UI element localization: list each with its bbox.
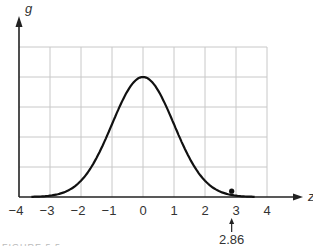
svg-text:3: 3 <box>232 203 239 218</box>
svg-text:−1: −1 <box>102 203 117 218</box>
normal-curve-chart: z g −4−3−2−101234 2.86 <box>0 0 313 247</box>
annotation-arrow: 2.86 <box>219 218 244 247</box>
figure-caption: FIGURE 5.5 <box>2 240 61 246</box>
y-axis-label: g <box>25 1 33 16</box>
x-axis-arrow-icon <box>293 194 303 201</box>
svg-text:−3: −3 <box>40 203 55 218</box>
svg-text:4: 4 <box>263 203 270 218</box>
svg-text:−2: −2 <box>71 203 86 218</box>
svg-text:1: 1 <box>170 203 177 218</box>
svg-text:0: 0 <box>139 203 146 218</box>
x-tick-labels: −4−3−2−101234 <box>9 203 271 218</box>
up-arrow-icon <box>229 218 234 224</box>
grid <box>19 47 267 197</box>
annotation-label: 2.86 <box>219 232 244 247</box>
x-axis-label: z <box>307 189 313 204</box>
data-point <box>229 189 234 194</box>
y-axis-arrow-icon <box>16 16 23 27</box>
svg-text:2: 2 <box>201 203 208 218</box>
svg-text:−4: −4 <box>9 203 24 218</box>
